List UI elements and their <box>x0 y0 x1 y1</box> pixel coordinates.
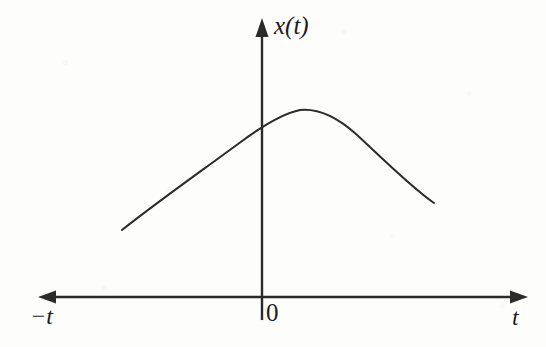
signal-curve <box>122 110 434 230</box>
x-axis-left-arrowhead-icon <box>38 291 56 304</box>
plot-canvas <box>0 0 546 347</box>
y-axis-label: x(t) <box>274 12 309 40</box>
x-axis-negative-label: −t <box>30 303 53 330</box>
signal-plot-figure: x(t) −t t 0 <box>0 0 546 347</box>
x-axis-positive-label: t <box>512 304 519 331</box>
x-axis <box>38 291 528 304</box>
origin-label: 0 <box>266 299 279 327</box>
x-axis-right-arrowhead-icon <box>510 291 528 304</box>
y-axis <box>256 18 269 320</box>
y-axis-arrowhead-icon <box>256 18 269 37</box>
